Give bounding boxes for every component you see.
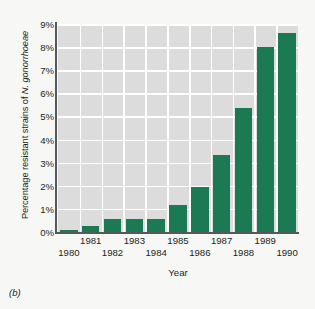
bar-1982 bbox=[104, 219, 121, 232]
x-axis-tick-1988: 1988 bbox=[233, 247, 254, 258]
x-axis-tick-1980: 1980 bbox=[58, 247, 79, 258]
x-axis-tick-1986: 1986 bbox=[189, 247, 210, 258]
y-axis-tick-6%: 6% bbox=[30, 88, 54, 99]
bar-1985 bbox=[169, 205, 186, 232]
bar-1984 bbox=[147, 219, 164, 232]
x-axis-tick-1985: 1985 bbox=[167, 235, 188, 246]
x-axis-tick-1982: 1982 bbox=[102, 247, 123, 258]
y-axis-tick-7%: 7% bbox=[30, 65, 54, 76]
x-axis-tick-labels: 1980198119821983198419851986198719881989… bbox=[58, 234, 298, 266]
y-axis-line bbox=[55, 22, 57, 234]
x-axis-tick-1990: 1990 bbox=[276, 247, 297, 258]
panel-label: (b) bbox=[9, 287, 21, 298]
y-axis-tick-8%: 8% bbox=[30, 42, 54, 53]
x-axis-tick-1984: 1984 bbox=[146, 247, 167, 258]
x-axis-title: Year bbox=[58, 267, 298, 278]
y-axis-tick-4%: 4% bbox=[30, 134, 54, 145]
bar-1988 bbox=[235, 108, 252, 232]
y-axis-tick-2%: 2% bbox=[30, 180, 54, 191]
figure-panel-b: Percentage resistant strains of N. gonor… bbox=[0, 0, 315, 309]
bar-1983 bbox=[126, 219, 143, 232]
bar-1989 bbox=[257, 47, 274, 232]
x-axis-tick-1981: 1981 bbox=[80, 235, 101, 246]
x-axis-tick-1989: 1989 bbox=[255, 235, 276, 246]
plot-area bbox=[58, 24, 298, 232]
bar-1986 bbox=[191, 187, 208, 232]
bar-series bbox=[58, 24, 298, 232]
y-axis-tick-1%: 1% bbox=[30, 203, 54, 214]
y-axis-tick-labels: 0%1%2%3%4%5%6%7%8%9% bbox=[30, 24, 54, 232]
y-axis-tick-3%: 3% bbox=[30, 157, 54, 168]
y-axis-title-species: N. gonorrhoeae bbox=[20, 31, 30, 94]
bar-1987 bbox=[213, 155, 230, 232]
bar-1990 bbox=[278, 33, 295, 232]
x-axis-tick-1987: 1987 bbox=[211, 235, 232, 246]
y-axis-tick-9%: 9% bbox=[30, 19, 54, 30]
y-axis-tick-0%: 0% bbox=[30, 227, 54, 238]
y-axis-title-prefix: Percentage resistant strains of bbox=[20, 94, 30, 219]
y-axis-title: Percentage resistant strains of N. gonor… bbox=[20, 9, 30, 241]
y-axis-tick-5%: 5% bbox=[30, 111, 54, 122]
x-axis-tick-1983: 1983 bbox=[124, 235, 145, 246]
